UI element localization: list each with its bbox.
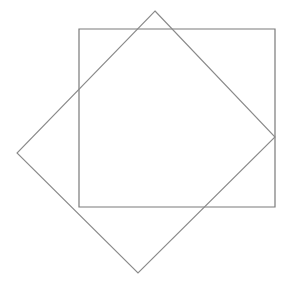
canvas-background [0, 0, 289, 289]
figure-container [0, 0, 289, 289]
shapes-canvas [0, 0, 289, 289]
